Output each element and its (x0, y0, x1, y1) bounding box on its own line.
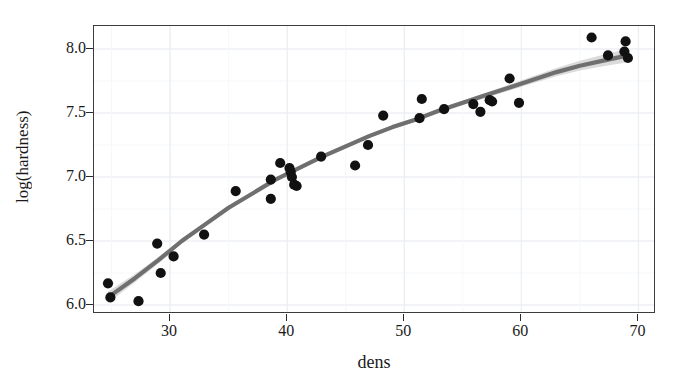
data-point (475, 107, 485, 117)
x-tick-mark (637, 314, 638, 321)
plot-panel (93, 25, 655, 313)
x-axis-title: dens (93, 352, 655, 373)
x-tick-mark (403, 314, 404, 321)
data-point (292, 181, 302, 191)
x-tick-label: 60 (495, 322, 545, 340)
y-tick-label: 6.0 (30, 295, 86, 313)
data-point (105, 292, 115, 302)
data-point (414, 113, 424, 123)
y-tick-mark (86, 304, 93, 305)
x-tick-mark (286, 314, 287, 321)
data-point (152, 239, 162, 249)
data-point (316, 152, 326, 162)
data-point (468, 99, 478, 109)
data-point (621, 36, 631, 46)
data-point (439, 104, 449, 114)
data-point (623, 53, 633, 63)
data-point (350, 160, 360, 170)
y-tick-label: 7.5 (30, 103, 86, 121)
plot-canvas (94, 26, 655, 313)
data-point (169, 251, 179, 261)
data-point (266, 175, 276, 185)
data-point (505, 73, 515, 83)
y-tick-mark (86, 240, 93, 241)
data-point (199, 230, 209, 240)
data-point (514, 98, 524, 108)
x-tick-label: 70 (612, 322, 662, 340)
x-tick-label: 40 (261, 322, 311, 340)
data-point (103, 278, 113, 288)
y-tick-label: 6.5 (30, 231, 86, 249)
data-point (587, 32, 597, 42)
y-tick-mark (86, 176, 93, 177)
data-point (603, 50, 613, 60)
scatter-plot-figure: log(hardness) 6.06.57.07.58.0 3040506070… (0, 0, 689, 385)
data-point (266, 194, 276, 204)
x-tick-mark (169, 314, 170, 321)
y-tick-label: 8.0 (30, 39, 86, 57)
data-point (231, 186, 241, 196)
x-tick-mark (520, 314, 521, 321)
data-point (378, 111, 388, 121)
data-point (156, 268, 166, 278)
y-tick-mark (86, 48, 93, 49)
data-point (417, 94, 427, 104)
x-tick-label: 30 (144, 322, 194, 340)
y-tick-label: 7.0 (30, 167, 86, 185)
data-point (275, 158, 285, 168)
x-axis-tick-labels: 3040506070 (0, 322, 689, 348)
x-tick-label: 50 (378, 322, 428, 340)
data-point (363, 140, 373, 150)
y-tick-mark (86, 112, 93, 113)
data-point (487, 96, 497, 106)
data-point (133, 296, 143, 306)
confidence-ribbon (108, 49, 628, 303)
